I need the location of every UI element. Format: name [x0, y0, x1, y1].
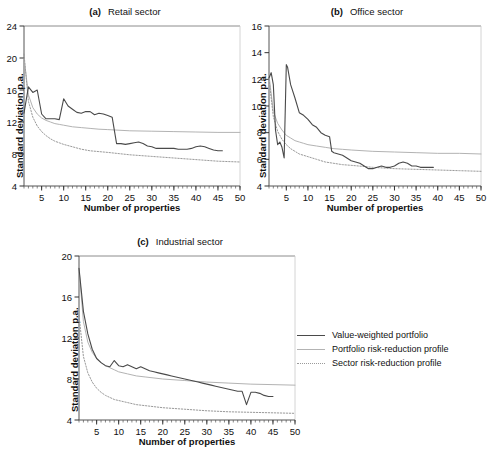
panel-a-x-axis-title: Number of properties	[24, 202, 240, 213]
panel-a-name: Retail sector	[108, 6, 161, 17]
svg-text:20: 20	[6, 53, 17, 64]
legend-label-sector-risk: Sector risk-reduction profile	[332, 358, 442, 368]
legend-item-value-weighted-portfolio: Value-weighted portfolio	[297, 328, 449, 342]
svg-text:16: 16	[61, 292, 72, 303]
legend-label-portfolio-risk: Portfolio risk-reduction profile	[332, 344, 449, 354]
legend-item-portfolio-risk-reduction: Portfolio risk-reduction profile	[297, 342, 449, 356]
svg-text:16: 16	[251, 21, 262, 32]
svg-text:4: 4	[67, 415, 72, 426]
legend-label-value-weighted: Value-weighted portfolio	[332, 330, 428, 340]
panel-b-x-axis-title: Number of properties	[269, 202, 481, 213]
panel-industrial-sector: (c)Industrial sector Standard deviation …	[55, 232, 305, 456]
legend-line-icon-sector-risk	[297, 358, 325, 368]
panel-c-name: Industrial sector	[156, 236, 223, 247]
legend: Value-weighted portfolio Portfolio risk-…	[297, 328, 449, 370]
svg-text:8: 8	[12, 149, 17, 160]
svg-text:8: 8	[67, 374, 72, 385]
svg-text:12: 12	[6, 117, 17, 128]
panel-c-x-axis-title: Number of properties	[79, 436, 295, 447]
panel-b-svg: 510152025303540455046810121416	[269, 26, 481, 186]
panel-c-svg: 510152025303540455048121620	[79, 256, 295, 420]
svg-text:14: 14	[251, 47, 262, 58]
panel-a-label: (a)	[89, 6, 101, 17]
svg-text:10: 10	[251, 101, 262, 112]
panel-a-plot: 51015202530354045504812162024	[24, 26, 240, 186]
panel-office-sector: (b)Office sector Standard deviation p.a.…	[243, 2, 491, 220]
panel-b-plot: 510152025303540455046810121416	[269, 26, 481, 186]
svg-text:24: 24	[6, 21, 17, 32]
panel-c-label: (c)	[137, 236, 149, 247]
svg-text:8: 8	[257, 127, 262, 138]
panel-c-title: (c)Industrial sector	[55, 236, 305, 247]
panel-retail-sector: (a)Retail sector Standard deviation p.a.…	[0, 2, 250, 220]
panel-b-label: (b)	[331, 6, 343, 17]
panel-c-plot: 510152025303540455048121620	[79, 256, 295, 420]
panel-b-name: Office sector	[350, 6, 403, 17]
svg-text:20: 20	[61, 251, 72, 262]
svg-text:6: 6	[257, 154, 262, 165]
legend-line-icon-portfolio-risk	[297, 344, 325, 354]
svg-text:12: 12	[251, 74, 262, 85]
legend-item-sector-risk-reduction: Sector risk-reduction profile	[297, 356, 449, 370]
svg-text:4: 4	[257, 181, 262, 192]
legend-line-icon-value-weighted	[297, 330, 325, 340]
svg-text:16: 16	[6, 85, 17, 96]
panel-b-title: (b)Office sector	[243, 6, 491, 17]
svg-text:12: 12	[61, 333, 72, 344]
svg-text:4: 4	[12, 181, 17, 192]
panel-a-svg: 51015202530354045504812162024	[24, 26, 240, 186]
panel-a-title: (a)Retail sector	[0, 6, 250, 17]
